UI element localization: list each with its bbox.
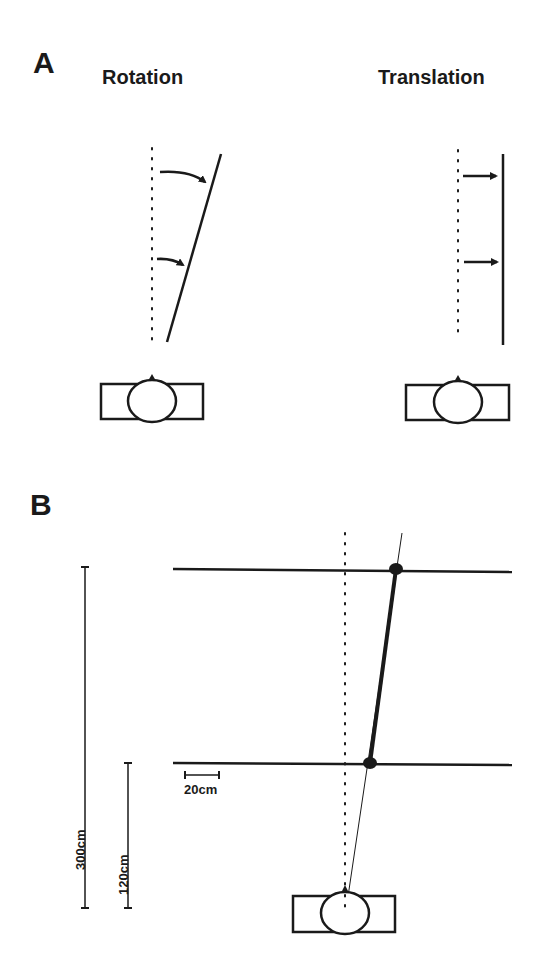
scale-300cm-label: 300cm — [73, 830, 88, 870]
near-plane-line — [173, 763, 512, 765]
far-plane-line — [173, 569, 512, 572]
observer-icon — [101, 374, 203, 422]
diagram-canvas — [0, 0, 541, 966]
scale-20cm-label: 20cm — [184, 782, 217, 797]
rotated-surface-line — [370, 569, 396, 763]
rotated-line — [167, 154, 221, 342]
far-intersection-dot — [389, 563, 403, 575]
observer-icon — [293, 885, 395, 934]
rotation-diagram — [101, 148, 221, 422]
rotation-arrow-lower — [157, 259, 183, 265]
observer-icon — [406, 375, 509, 423]
translation-diagram — [406, 150, 509, 423]
geometry-diagram — [81, 533, 512, 934]
near-intersection-dot — [363, 757, 377, 769]
rotation-arrow-upper — [160, 172, 205, 182]
scale-120cm-label: 120cm — [116, 855, 131, 895]
scale-bar-20cm — [185, 771, 219, 779]
